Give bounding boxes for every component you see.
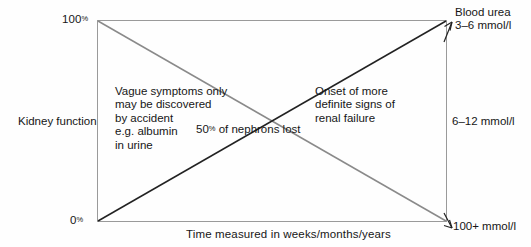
- y-axis-caption: Kidney function: [18, 115, 97, 127]
- x-axis-caption: Time measured in weeks/months/years: [186, 228, 391, 240]
- annotation-nephrons-lost: 50% of nephrons lost: [196, 123, 301, 135]
- annotation-late-stage: Onset of more definite signs of renal fa…: [315, 85, 395, 125]
- percent-symbol: %: [77, 215, 84, 224]
- blood-urea-label-normal: Blood urea 3–6 mmol/l: [455, 6, 511, 33]
- percent-symbol: %: [82, 14, 89, 23]
- y-axis-tick-top-value: 100: [62, 13, 82, 25]
- blood-urea-label-severe: 100+ mmol/l: [453, 220, 516, 233]
- y-axis-tick-bottom: 0%: [70, 214, 83, 226]
- annotation-early-stage: Vague symptoms only may be discovered by…: [115, 85, 227, 152]
- nephrons-lost-value: 50: [196, 123, 209, 135]
- blood-urea-label-moderate: 6–12 mmol/l: [452, 115, 515, 128]
- y-axis-tick-top: 100%: [62, 13, 88, 25]
- kidney-function-figure: 100% 0% Kidney function Time measured in…: [0, 0, 531, 247]
- nephrons-lost-text: of nephrons lost: [215, 123, 300, 135]
